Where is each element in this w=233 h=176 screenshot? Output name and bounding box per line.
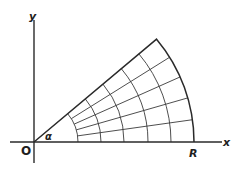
x-axis-label: x	[222, 136, 231, 149]
grid-radial-line	[78, 120, 193, 136]
y-axis-label: y	[29, 10, 37, 23]
grid-arc	[139, 54, 171, 142]
radius-label: R	[189, 147, 197, 160]
angle-label: α	[45, 131, 52, 142]
diagram-canvas: y x O R α	[0, 0, 233, 176]
polar-sector-diagram: y x O R α	[0, 0, 233, 176]
origin-label: O	[21, 144, 31, 158]
grid-radial-line	[76, 98, 188, 130]
grid-arc	[121, 69, 148, 142]
